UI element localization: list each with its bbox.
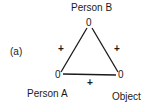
panel-label: (a)	[10, 47, 22, 57]
sign-personA-object: +	[87, 78, 93, 88]
sign-personB-object: +	[114, 44, 120, 54]
node-value-person-b: 0	[86, 18, 92, 28]
sign-personA-personB: +	[58, 44, 64, 54]
edge-personA-object	[63, 74, 116, 75]
node-label-person-b: Person B	[71, 3, 112, 13]
node-label-person-a: Person A	[27, 89, 68, 99]
node-label-object: Object	[112, 92, 141, 102]
edge-personA-personB	[61, 28, 87, 72]
node-value-person-a: 0	[55, 70, 61, 80]
node-value-object: 0	[118, 70, 124, 80]
